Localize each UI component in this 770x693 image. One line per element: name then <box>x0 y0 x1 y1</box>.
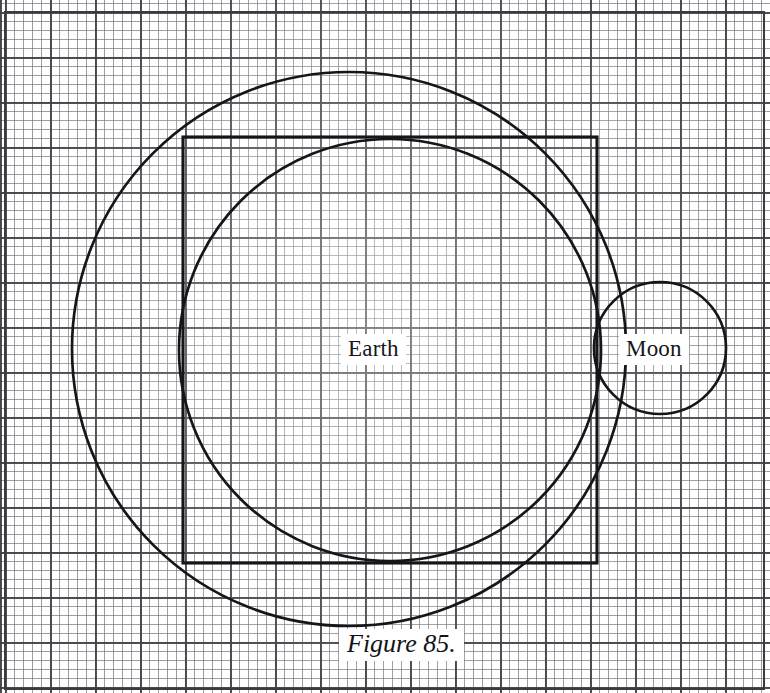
moon-label: Moon <box>619 334 689 365</box>
figure-page: Earth Moon Figure 85. <box>0 0 770 693</box>
earth-label: Earth <box>341 334 406 365</box>
figure-caption: Figure 85. <box>339 629 464 661</box>
